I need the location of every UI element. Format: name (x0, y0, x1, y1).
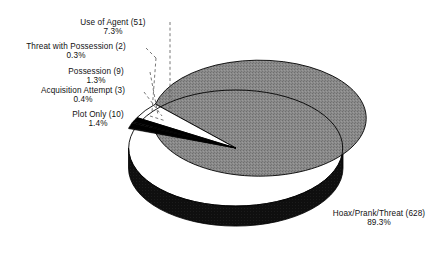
pie-chart: Use of Agent (51) 7.3% Threat with Posse… (0, 0, 440, 256)
leader-line-threat-possession (146, 48, 156, 58)
slice-label-plot-only: Plot Only (10) 1.4% (50, 111, 146, 129)
slice-label-percent: 1.4% (50, 120, 146, 129)
slice-label-percent: 7.3% (57, 28, 169, 37)
slice-label-use-of-agent: Use of Agent (51) 7.3% (57, 19, 169, 37)
slice-label-percent: 0.3% (8, 52, 144, 61)
slice-label-percent: 89.3% (320, 219, 438, 228)
slice-label-possession: Possession (9) 1.3% (44, 68, 148, 86)
slice-label-percent: 1.3% (44, 77, 148, 86)
slice-label-hoax-prank-threat: Hoax/Prank/Threat (628) 89.3% (320, 210, 438, 228)
pie-slice-hoax-prank-threat (152, 60, 366, 176)
slice-label-acquisition-attempt: Acquisition Attempt (3) 0.4% (24, 87, 142, 105)
slice-label-threat-with-possession: Threat with Possession (2) 0.3% (8, 43, 144, 61)
slice-label-percent: 0.4% (24, 96, 142, 105)
